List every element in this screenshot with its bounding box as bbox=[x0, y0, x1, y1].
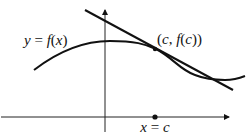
tangent-point bbox=[153, 47, 157, 51]
tangent-line bbox=[85, 10, 233, 90]
curve-label: y = f(x) bbox=[22, 32, 67, 49]
point-label: (c, f(c)) bbox=[157, 31, 202, 48]
tangent-diagram: y = f(x) (c, f(c)) x = c bbox=[0, 0, 246, 134]
x-equals-c-label: x = c bbox=[139, 119, 170, 134]
